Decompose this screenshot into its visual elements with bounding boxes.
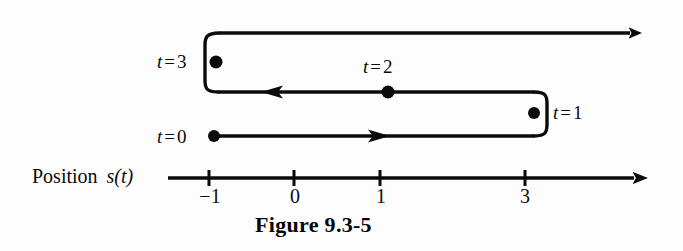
tick-label-1: 1 bbox=[361, 186, 401, 206]
tick-label-minus-1: −1 bbox=[190, 186, 230, 206]
label-t2-equals: = bbox=[368, 56, 383, 77]
tick-label-3: 3 bbox=[505, 186, 545, 206]
dot-t2 bbox=[382, 86, 395, 99]
figure-caption: Figure 9.3-5 bbox=[0, 212, 627, 238]
label-t0-value: 0 bbox=[177, 126, 187, 147]
label-t0-equals: = bbox=[162, 126, 177, 147]
dot-t3 bbox=[210, 56, 223, 69]
dot-t1 bbox=[528, 107, 540, 119]
label-t3-equals: = bbox=[162, 51, 177, 72]
number-line-axis bbox=[168, 170, 634, 186]
label-t-equals-1: t=1 bbox=[553, 103, 583, 122]
tick-label-0: 0 bbox=[275, 186, 315, 206]
label-t1-value: 1 bbox=[573, 102, 583, 123]
label-t-equals-3: t=3 bbox=[157, 52, 187, 71]
label-t2-value: 2 bbox=[383, 56, 393, 77]
dot-t0 bbox=[208, 130, 220, 142]
axis-label-function: s(t) bbox=[98, 165, 134, 187]
label-t3-value: 3 bbox=[177, 51, 187, 72]
label-t1-equals: = bbox=[558, 102, 573, 123]
label-t-equals-0: t=0 bbox=[157, 127, 187, 146]
axis-label: Positions(t) bbox=[32, 166, 133, 186]
figure-container: t=3 t=2 t=1 t=0 Positions(t) −1 0 1 3 Fi… bbox=[0, 0, 683, 251]
axis-label-word: Position bbox=[32, 165, 98, 187]
label-t-equals-2: t=2 bbox=[363, 57, 393, 76]
